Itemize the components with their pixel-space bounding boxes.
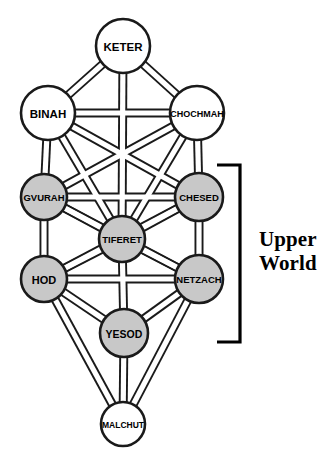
upper-world-label: Upper World bbox=[259, 228, 317, 276]
sefirah-label-yesod: YESOD bbox=[106, 328, 143, 340]
sefirah-label-binah: BINAH bbox=[30, 108, 66, 120]
sefirah-label-chochmah: CHOCHMAH bbox=[170, 109, 224, 119]
sefirah-label-keter: KETER bbox=[104, 41, 144, 53]
sefirah-label-hod: HOD bbox=[32, 274, 57, 286]
edge-keter-tiferet bbox=[122, 46, 123, 239]
tree-of-life-diagram: KETERBINAHCHOCHMAHGVURAHCHESEDTIFERETHOD… bbox=[0, 0, 336, 473]
sefirah-label-chesed: CHESED bbox=[179, 192, 219, 203]
sefirah-label-malchut: MALCHUT bbox=[102, 420, 145, 430]
sefirah-label-tiferet: TIFERET bbox=[102, 234, 142, 245]
sefirah-label-netzach: NETZACH bbox=[176, 274, 222, 285]
sefirah-label-gvurah: GVURAH bbox=[23, 192, 64, 203]
